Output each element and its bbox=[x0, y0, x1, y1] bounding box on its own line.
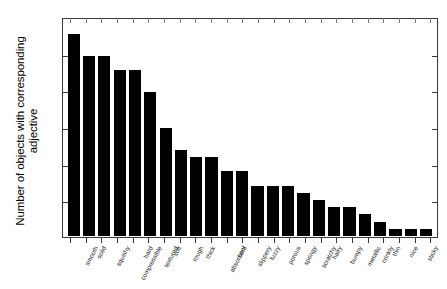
x-tick-mark-top bbox=[227, 18, 228, 23]
bar-fuzzy bbox=[250, 20, 265, 236]
y-tick-mark bbox=[63, 92, 68, 93]
bar-thin bbox=[373, 20, 388, 236]
y-tick-mark bbox=[63, 56, 68, 57]
bar-rect bbox=[267, 186, 279, 236]
y-tick-mark-right bbox=[432, 56, 437, 57]
bar-thick bbox=[189, 20, 204, 236]
x-tick-mark-top bbox=[305, 18, 306, 23]
x-tick-mark-top bbox=[195, 18, 196, 23]
bar-springy bbox=[281, 20, 296, 236]
x-tick-label-rough: rough bbox=[190, 245, 204, 263]
x-tick-mark-top bbox=[383, 18, 384, 23]
x-tick-mark-top bbox=[274, 18, 275, 23]
bar-rect bbox=[221, 171, 233, 236]
x-tick-mark-top bbox=[164, 18, 165, 23]
y-tick-mark-right bbox=[432, 129, 437, 130]
bar-rect bbox=[297, 193, 309, 236]
bar-rect bbox=[129, 70, 141, 236]
bar-rect bbox=[68, 34, 80, 236]
bar-solid bbox=[81, 20, 96, 236]
x-tick-mark-top bbox=[180, 18, 181, 23]
bar-metallic bbox=[342, 20, 357, 236]
x-tick-mark-top bbox=[70, 18, 71, 23]
bar-compressible bbox=[112, 20, 127, 236]
x-tick-label-porous: porous bbox=[286, 245, 301, 266]
x-tick-mark-top bbox=[86, 18, 87, 23]
bar-rect bbox=[374, 222, 386, 236]
bar-rect bbox=[359, 214, 371, 236]
bar-rect bbox=[236, 171, 248, 236]
y-tick-mark bbox=[63, 166, 68, 167]
bar-rect bbox=[144, 92, 156, 236]
bar-rect bbox=[175, 150, 187, 236]
x-tick-mark-top bbox=[242, 18, 243, 23]
bar-crinkly bbox=[357, 20, 372, 236]
bar-chart-figure: Number of objects with corresponding adj… bbox=[0, 0, 447, 289]
bar-rect bbox=[114, 70, 126, 236]
bar-soft bbox=[158, 20, 173, 236]
bar-rect bbox=[389, 229, 401, 236]
bar-absorbent bbox=[204, 20, 219, 236]
x-tick-mark-top bbox=[117, 18, 118, 23]
x-tick-mark-top bbox=[430, 18, 431, 23]
bar-rect bbox=[405, 229, 417, 236]
x-tick-mark-top bbox=[399, 18, 400, 23]
bar-rect bbox=[343, 207, 355, 236]
bar-rect bbox=[83, 56, 95, 236]
x-tick-mark-top bbox=[368, 18, 369, 23]
x-tick-label-thick: thick bbox=[204, 245, 216, 260]
bar-rect bbox=[98, 56, 110, 236]
x-axis-tick-labels: smoothsolidsquishycompressiblehardtextur… bbox=[62, 243, 438, 289]
x-tick-mark-top bbox=[101, 18, 102, 23]
x-tick-mark-top bbox=[289, 18, 290, 23]
plot-area bbox=[62, 18, 438, 238]
x-tick-label-bumpy: bumpy bbox=[348, 245, 363, 265]
bar-scratchy bbox=[296, 20, 311, 236]
x-tick-mark-top bbox=[336, 18, 337, 23]
y-tick-mark-right bbox=[432, 166, 437, 167]
x-tick-mark-top bbox=[352, 18, 353, 23]
bar-rect bbox=[282, 186, 294, 236]
y-tick-mark bbox=[63, 202, 68, 203]
x-tick-label-sticky: sticky bbox=[425, 245, 439, 262]
top-axis-tick-marks bbox=[62, 18, 438, 24]
y-tick-mark bbox=[63, 129, 68, 130]
bar-rect bbox=[328, 207, 340, 236]
y-tick-mark-right bbox=[432, 92, 437, 93]
bar-hairy bbox=[311, 20, 326, 236]
bar-porous bbox=[265, 20, 280, 236]
bar-bumpy bbox=[327, 20, 342, 236]
bar-rect bbox=[420, 229, 432, 236]
x-tick-mark-top bbox=[258, 18, 259, 23]
bar-sticky bbox=[403, 20, 418, 236]
bar-squishy bbox=[97, 20, 112, 236]
x-tick-mark-top bbox=[321, 18, 322, 23]
bar-textured bbox=[143, 20, 158, 236]
bar-unpleasant bbox=[419, 20, 434, 236]
x-tick-mark-top bbox=[133, 18, 134, 23]
bar-smooth bbox=[66, 20, 81, 236]
x-tick-label-metallic: metallic bbox=[365, 245, 381, 267]
x-tick-label-squishy: squishy bbox=[115, 245, 131, 267]
bar-rect bbox=[160, 128, 172, 236]
x-tick-mark-top bbox=[148, 18, 149, 23]
bar-rect bbox=[313, 200, 325, 236]
bar-rough bbox=[173, 20, 188, 236]
x-tick-label-springy: springy bbox=[302, 245, 318, 266]
bar-rect bbox=[205, 157, 217, 236]
x-tick-label-nice: nice bbox=[407, 245, 419, 259]
bar-slippery bbox=[235, 20, 250, 236]
bar-nice bbox=[388, 20, 403, 236]
bar-rect bbox=[190, 157, 202, 236]
bar-rect bbox=[251, 186, 263, 236]
x-tick-mark-top bbox=[415, 18, 416, 23]
bar-cool bbox=[219, 20, 234, 236]
y-tick-mark-right bbox=[432, 202, 437, 203]
bar-series bbox=[64, 20, 436, 236]
x-tick-mark-top bbox=[211, 18, 212, 23]
bar-hard bbox=[127, 20, 142, 236]
